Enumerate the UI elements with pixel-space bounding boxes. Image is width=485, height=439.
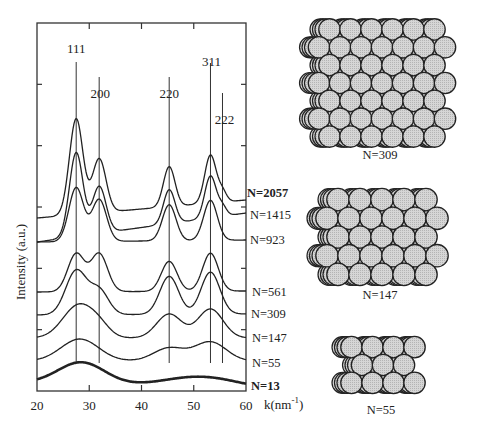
peak-label-220: 220 — [159, 86, 179, 101]
x-tick-label: 40 — [135, 398, 148, 413]
curve-N-55 — [37, 339, 246, 360]
atom — [340, 126, 361, 147]
cluster-illustrations: N=309N=147N=55 — [300, 19, 456, 417]
y-axis-title: Intensity (a.u.) — [13, 224, 28, 300]
cluster-N-55: N=55 — [332, 336, 425, 417]
intensity-curves — [37, 119, 246, 384]
curve-label-N-923: N=923 — [250, 233, 285, 247]
atom — [371, 263, 393, 285]
atom — [362, 372, 383, 393]
peak-label-111: 111 — [67, 41, 86, 56]
curve-N-309 — [37, 269, 246, 315]
peak-label-311: 311 — [202, 54, 221, 69]
atom — [404, 372, 425, 393]
atom — [319, 126, 340, 147]
x-tick-label: 60 — [240, 398, 253, 413]
peak-label-222: 222 — [215, 112, 235, 127]
cluster-N-147: N=147 — [307, 188, 448, 302]
plot-area: 2030405060 111200220311222 N=2057N=1415N… — [31, 23, 292, 413]
atom — [361, 126, 382, 147]
atom — [403, 126, 424, 147]
cluster-label: N=55 — [367, 403, 396, 417]
curve-N-13 — [37, 362, 246, 384]
cluster-N-309: N=309 — [300, 19, 456, 162]
atom — [393, 263, 415, 285]
curve-N-561 — [37, 253, 246, 292]
peak-label-200: 200 — [90, 86, 110, 101]
atom — [341, 372, 362, 393]
atom — [415, 263, 437, 285]
curve-labels: N=2057N=1415N=923N=561N=309N=147N=55N=13 — [247, 186, 291, 393]
x-tick-label: 20 — [31, 398, 44, 413]
curve-label-N-147: N=147 — [252, 331, 287, 345]
curve-label-N-309: N=309 — [251, 307, 286, 321]
curve-label-N-1415: N=1415 — [250, 208, 291, 222]
x-tick-label: 50 — [187, 398, 200, 413]
atom — [349, 263, 371, 285]
atom — [327, 263, 349, 285]
x-tick-labels: 2030405060 — [31, 398, 253, 413]
x-tick-label: 30 — [83, 398, 96, 413]
atom — [424, 126, 445, 147]
curve-N-147 — [37, 304, 246, 338]
curve-label-N-2057: N=2057 — [247, 186, 288, 200]
curve-label-N-55: N=55 — [252, 356, 281, 370]
x-axis-title: k(nm-1) — [264, 395, 303, 412]
curve-label-N-561: N=561 — [252, 285, 287, 299]
atom — [382, 126, 403, 147]
curve-label-N-13: N=13 — [251, 379, 280, 393]
atom — [383, 372, 404, 393]
curve-N-2057 — [37, 119, 246, 218]
cluster-label: N=309 — [363, 148, 398, 162]
figure: 2030405060 111200220311222 N=2057N=1415N… — [0, 0, 485, 439]
cluster-label: N=147 — [363, 288, 398, 302]
